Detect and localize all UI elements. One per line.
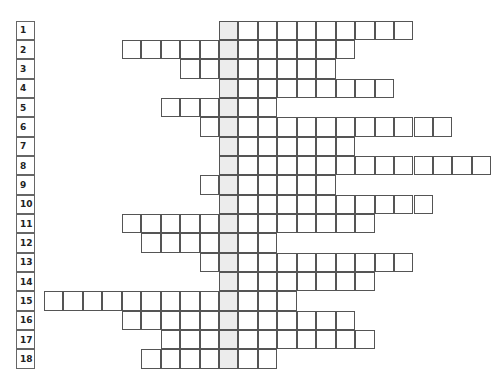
letter-cell[interactable]: [336, 21, 355, 40]
letter-cell[interactable]: [180, 40, 199, 59]
letter-cell[interactable]: [277, 291, 296, 310]
letter-cell[interactable]: [238, 233, 257, 252]
letter-cell[interactable]: [141, 349, 160, 368]
letter-cell[interactable]: [238, 330, 257, 349]
letter-cell[interactable]: [180, 349, 199, 368]
letter-cell[interactable]: [297, 330, 316, 349]
solution-cell[interactable]: [219, 214, 238, 233]
letter-cell[interactable]: [297, 272, 316, 291]
letter-cell[interactable]: [180, 311, 199, 330]
letter-cell[interactable]: [277, 330, 296, 349]
letter-cell[interactable]: [297, 117, 316, 136]
letter-cell[interactable]: [161, 98, 180, 117]
letter-cell[interactable]: [238, 311, 257, 330]
letter-cell[interactable]: [258, 21, 277, 40]
letter-cell[interactable]: [297, 59, 316, 78]
solution-cell[interactable]: [219, 291, 238, 310]
letter-cell[interactable]: [238, 117, 257, 136]
letter-cell[interactable]: [141, 40, 160, 59]
letter-cell[interactable]: [375, 156, 394, 175]
letter-cell[interactable]: [44, 291, 63, 310]
letter-cell[interactable]: [394, 117, 413, 136]
letter-cell[interactable]: [277, 253, 296, 272]
solution-cell[interactable]: [219, 98, 238, 117]
letter-cell[interactable]: [316, 195, 335, 214]
letter-cell[interactable]: [277, 214, 296, 233]
letter-cell[interactable]: [122, 311, 141, 330]
letter-cell[interactable]: [355, 156, 374, 175]
letter-cell[interactable]: [316, 156, 335, 175]
letter-cell[interactable]: [394, 156, 413, 175]
letter-cell[interactable]: [161, 330, 180, 349]
letter-cell[interactable]: [355, 117, 374, 136]
letter-cell[interactable]: [161, 233, 180, 252]
letter-cell[interactable]: [336, 79, 355, 98]
letter-cell[interactable]: [238, 253, 257, 272]
letter-cell[interactable]: [200, 291, 219, 310]
letter-cell[interactable]: [258, 156, 277, 175]
letter-cell[interactable]: [375, 195, 394, 214]
letter-cell[interactable]: [316, 311, 335, 330]
letter-cell[interactable]: [414, 156, 433, 175]
letter-cell[interactable]: [277, 79, 296, 98]
letter-cell[interactable]: [258, 330, 277, 349]
letter-cell[interactable]: [238, 40, 257, 59]
letter-cell[interactable]: [414, 195, 433, 214]
letter-cell[interactable]: [122, 214, 141, 233]
solution-cell[interactable]: [219, 233, 238, 252]
letter-cell[interactable]: [141, 233, 160, 252]
solution-cell[interactable]: [219, 21, 238, 40]
letter-cell[interactable]: [238, 156, 257, 175]
letter-cell[interactable]: [355, 79, 374, 98]
solution-cell[interactable]: [219, 79, 238, 98]
letter-cell[interactable]: [336, 330, 355, 349]
letter-cell[interactable]: [180, 330, 199, 349]
letter-cell[interactable]: [258, 79, 277, 98]
letter-cell[interactable]: [277, 137, 296, 156]
letter-cell[interactable]: [297, 21, 316, 40]
letter-cell[interactable]: [394, 195, 413, 214]
letter-cell[interactable]: [258, 272, 277, 291]
letter-cell[interactable]: [297, 214, 316, 233]
letter-cell[interactable]: [316, 40, 335, 59]
letter-cell[interactable]: [63, 291, 82, 310]
letter-cell[interactable]: [336, 214, 355, 233]
letter-cell[interactable]: [414, 117, 433, 136]
letter-cell[interactable]: [238, 195, 257, 214]
letter-cell[interactable]: [238, 272, 257, 291]
letter-cell[interactable]: [161, 291, 180, 310]
letter-cell[interactable]: [180, 59, 199, 78]
letter-cell[interactable]: [258, 40, 277, 59]
solution-cell[interactable]: [219, 272, 238, 291]
letter-cell[interactable]: [375, 21, 394, 40]
letter-cell[interactable]: [258, 214, 277, 233]
letter-cell[interactable]: [258, 98, 277, 117]
letter-cell[interactable]: [336, 40, 355, 59]
letter-cell[interactable]: [316, 330, 335, 349]
letter-cell[interactable]: [277, 272, 296, 291]
letter-cell[interactable]: [297, 137, 316, 156]
letter-cell[interactable]: [355, 214, 374, 233]
letter-cell[interactable]: [316, 117, 335, 136]
letter-cell[interactable]: [180, 214, 199, 233]
letter-cell[interactable]: [472, 156, 491, 175]
letter-cell[interactable]: [336, 311, 355, 330]
letter-cell[interactable]: [297, 311, 316, 330]
letter-cell[interactable]: [141, 311, 160, 330]
letter-cell[interactable]: [258, 349, 277, 368]
letter-cell[interactable]: [258, 311, 277, 330]
letter-cell[interactable]: [258, 175, 277, 194]
letter-cell[interactable]: [394, 253, 413, 272]
letter-cell[interactable]: [277, 156, 296, 175]
solution-cell[interactable]: [219, 117, 238, 136]
letter-cell[interactable]: [102, 291, 121, 310]
letter-cell[interactable]: [161, 40, 180, 59]
letter-cell[interactable]: [200, 59, 219, 78]
letter-cell[interactable]: [200, 311, 219, 330]
letter-cell[interactable]: [200, 253, 219, 272]
solution-cell[interactable]: [219, 137, 238, 156]
letter-cell[interactable]: [238, 21, 257, 40]
letter-cell[interactable]: [277, 40, 296, 59]
solution-cell[interactable]: [219, 59, 238, 78]
letter-cell[interactable]: [200, 175, 219, 194]
